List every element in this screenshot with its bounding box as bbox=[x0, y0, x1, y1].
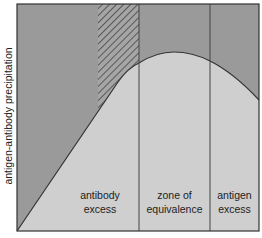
precipitin-diagram: antigen-antibody precipitation antibody … bbox=[0, 0, 262, 238]
region-label-antibody-excess: antibody excess bbox=[60, 188, 140, 216]
region-label-zone-of-equivalence: zone of equivalence bbox=[139, 188, 210, 216]
region-label-line: excess bbox=[210, 202, 259, 216]
region-label-line: excess bbox=[60, 202, 140, 216]
y-axis-label: antigen-antibody precipitation bbox=[2, 30, 14, 202]
region-label-line: antibody bbox=[60, 188, 140, 202]
region-label-line: antigen bbox=[210, 188, 259, 202]
region-label-line: zone of bbox=[139, 188, 210, 202]
region-label-antigen-excess: antigen excess bbox=[210, 188, 259, 216]
region-label-line: equivalence bbox=[139, 202, 210, 216]
